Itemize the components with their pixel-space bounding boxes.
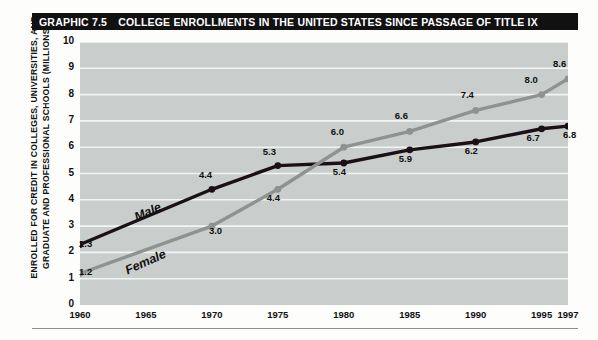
data-label-male: 5.9 (399, 153, 412, 164)
chart-title: COLLEGE ENROLLMENTS IN THE UNITED STATES… (118, 16, 538, 28)
y-tick-label: 8 (44, 88, 74, 99)
data-label-male: 6.2 (465, 145, 478, 156)
y-tick-label: 2 (44, 245, 74, 256)
x-tick-label: 1970 (192, 309, 232, 320)
data-label-female: 3.0 (209, 225, 222, 236)
y-tick-label: 5 (44, 167, 74, 178)
bottom-divider (32, 328, 578, 329)
data-label-female: 7.4 (461, 89, 474, 100)
y-tick-label: 0 (44, 298, 74, 309)
x-tick-label: 1965 (126, 309, 166, 320)
data-label-female: 4.4 (267, 192, 280, 203)
y-tick-label: 6 (44, 140, 74, 151)
data-label-female: 8.6 (553, 58, 566, 69)
data-label-female: 6.0 (331, 126, 344, 137)
chart-figure: GRAPHIC 7.5 COLLEGE ENROLLMENTS IN THE U… (0, 0, 598, 340)
x-tick-label: 1997 (548, 309, 588, 320)
series-line-female (80, 79, 568, 274)
y-tick-label: 4 (44, 193, 74, 204)
data-point-male (208, 186, 215, 193)
data-label-female: 1.2 (79, 266, 92, 277)
data-point-female (340, 144, 347, 151)
data-label-female: 8.0 (525, 74, 538, 85)
data-label-male: 6.7 (527, 132, 540, 143)
data-label-male: 2.3 (79, 238, 92, 249)
series-lines (80, 79, 568, 274)
y-tick-label: 3 (44, 219, 74, 230)
y-tick-label: 1 (44, 272, 74, 283)
x-tick-label: 1985 (390, 309, 430, 320)
data-label-male: 6.8 (563, 129, 576, 140)
y-axis-label-line1: ENROLLED FOR CREDIT IN COLLEGES, UNIVERS… (28, 16, 40, 279)
x-tick-label: 1990 (456, 309, 496, 320)
data-point-male (274, 162, 281, 169)
data-label-female: 6.6 (395, 110, 408, 121)
x-tick-label: 1960 (60, 309, 100, 320)
data-point-female (538, 91, 545, 98)
data-label-male: 4.4 (199, 169, 212, 180)
data-label-male: 5.3 (263, 146, 276, 157)
x-tick-label: 1975 (258, 309, 298, 320)
x-tick-label: 1980 (324, 309, 364, 320)
data-point-female (472, 107, 479, 114)
y-tick-label: 9 (44, 61, 74, 72)
chart-title-bar: GRAPHIC 7.5 COLLEGE ENROLLMENTS IN THE U… (32, 13, 578, 30)
y-tick-label: 10 (44, 35, 74, 46)
y-tick-label: 7 (44, 114, 74, 125)
data-point-female (406, 128, 413, 135)
data-label-male: 5.4 (333, 166, 346, 177)
